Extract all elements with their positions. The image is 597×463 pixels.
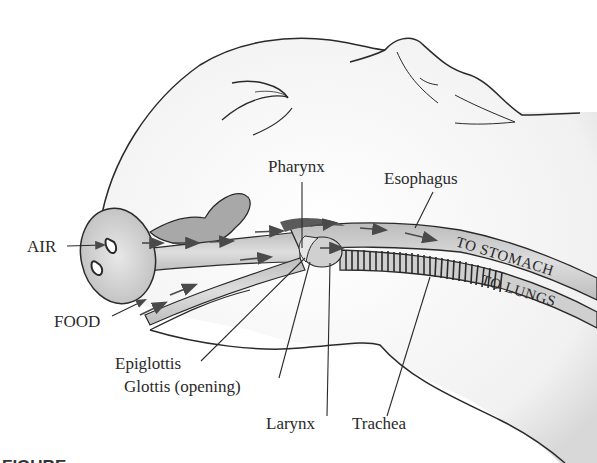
label-food: FOOD [54, 313, 100, 330]
pig-head-digestive-respiratory-diagram: TO STOMACH TO LUNGS [0, 0, 597, 463]
label-trachea: Trachea [352, 415, 406, 432]
figure-caption-partial: FIGURE [2, 453, 66, 463]
label-glottis: Glottis (opening) [124, 378, 241, 395]
label-air: AIR [27, 238, 56, 255]
label-pharynx: Pharynx [268, 158, 325, 175]
label-larynx: Larynx [266, 415, 315, 432]
label-epiglottis: Epiglottis [115, 355, 181, 372]
label-esophagus: Esophagus [384, 170, 458, 187]
